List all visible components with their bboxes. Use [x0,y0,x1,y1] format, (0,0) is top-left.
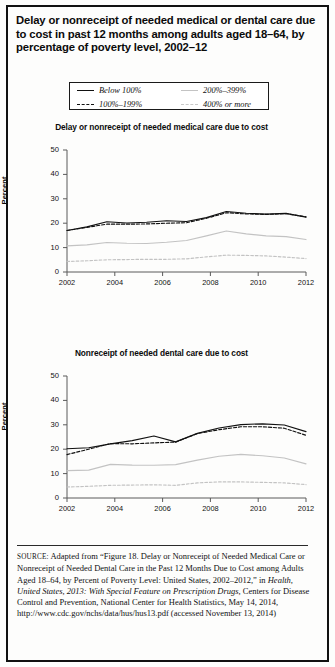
source-line-1: Adapted from “Figure 18. Delay or Nonrec… [17,551,305,585]
x-axis-tick: 2012 [289,504,323,513]
legend-label: 100%–199% [99,100,142,109]
chart-svg [0,138,323,318]
source-label: SOURCE: [17,553,49,561]
legend-label: Below 100% [99,86,142,95]
data-series-line [67,231,306,246]
y-axis-tick: 20 [37,444,59,453]
x-axis-tick: 2010 [241,504,275,513]
y-axis-tick: 50 [37,371,59,380]
legend-label: 400% or more [203,100,251,109]
x-axis-tick: 2010 [241,278,275,287]
legend-swatch-solid-dark-icon [77,90,94,91]
x-axis-tick: 2008 [193,278,227,287]
x-axis-tick: 2002 [50,504,84,513]
y-axis-tick: 30 [37,420,59,429]
legend-swatch-dashed-light-icon [181,104,198,105]
chart-svg [0,364,323,544]
legend-swatch-solid-light-icon [181,90,198,91]
y-axis-tick: 10 [37,469,59,478]
x-axis-tick: 2004 [98,278,132,287]
legend-item-100-199: 100%–199% [70,100,174,109]
legend-label: 200%–399% [203,86,246,95]
data-series-line [67,255,306,261]
chart-legend: Below 100% 200%–399% 100%–199% 400% or m… [69,82,269,110]
x-axis-tick: 2006 [146,504,180,513]
y-axis-tick: 0 [37,493,59,502]
y-axis-tick: 50 [37,145,59,154]
plot-area: Percent 01020304050200220042006200820102… [0,364,323,504]
legend-item-below-100: Below 100% [70,86,174,95]
x-axis-tick: 2008 [193,504,227,513]
source-divider [17,545,308,546]
figure-page: Delay or nonreceipt of needed medical or… [0,0,335,667]
y-axis-tick: 40 [37,395,59,404]
source-note: SOURCE: Adapted from “Figure 18. Delay o… [17,551,312,620]
x-axis-tick: 2012 [289,278,323,287]
legend-swatch-dashed-dark-icon [77,104,94,105]
y-axis-tick: 40 [37,169,59,178]
x-axis-tick: 2004 [98,504,132,513]
y-axis-tick: 30 [37,194,59,203]
y-axis-tick: 10 [37,243,59,252]
chart-title: Delay or nonreceipt of needed medical ca… [0,122,323,132]
legend-item-200-399: 200%–399% [174,86,270,95]
legend-item-400-or-more: 400% or more [174,100,270,109]
chart-title: Nonreceipt of needed dental care due to … [0,348,323,358]
figure-title: Delay or nonreceipt of needed medical or… [16,14,316,55]
x-axis-tick: 2002 [50,278,84,287]
y-axis-tick: 0 [37,267,59,276]
y-axis-tick: 20 [37,218,59,227]
data-series-line [67,482,306,487]
plot-area: Percent 01020304050200220042006200820102… [0,138,323,278]
data-series-line [67,454,306,470]
data-series-line [67,427,306,455]
x-axis-tick: 2006 [146,278,180,287]
